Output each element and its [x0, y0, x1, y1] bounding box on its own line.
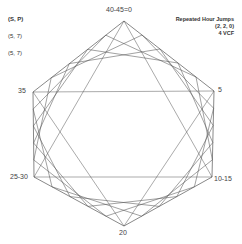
vertex-label-upper-left: 35	[18, 87, 26, 94]
vertex-label-lower-right: 10-15	[214, 175, 232, 182]
diagram-title: Repeated Hour Jumps (2, 2, 0) 4 VCF	[176, 16, 234, 37]
vertex-label-lower-left: 25-30	[10, 173, 28, 180]
legend-item-2: (5, 7)	[8, 33, 22, 39]
title-line-1: Repeated Hour Jumps	[176, 16, 234, 23]
legend-item-3: (5, 7)	[8, 50, 22, 56]
title-line-2: (2, 2, 0)	[176, 23, 234, 30]
title-line-3: 4 VCF	[176, 30, 234, 37]
vertex-label-bottom: 20	[119, 229, 127, 236]
legend-item-1: (S, P)	[8, 16, 23, 22]
vertex-label-upper-right: 5	[218, 86, 222, 93]
vertex-label-top: 40-45=0	[106, 6, 132, 13]
